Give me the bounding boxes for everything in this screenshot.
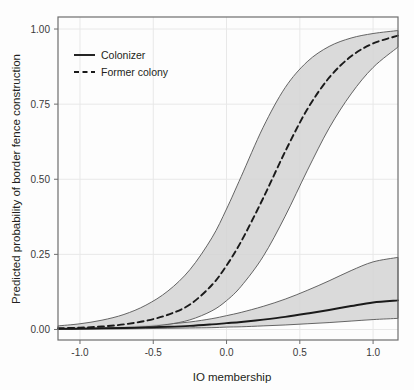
x-axis-title: IO membership: [193, 371, 272, 383]
prediction-plot: -1.0-0.50.00.51.0 0.000.250.500.751.00 I…: [0, 0, 414, 390]
y-tick-label: 1.00: [31, 24, 51, 35]
y-tick-label: 0.75: [31, 99, 51, 110]
x-tick-label: 0.0: [220, 347, 234, 358]
legend-label: Former colony: [101, 66, 169, 78]
x-tick-label: -1.0: [71, 347, 89, 358]
y-tick-label: 0.00: [31, 324, 51, 335]
x-tick-label: 0.5: [293, 347, 307, 358]
y-tick-label: 0.50: [31, 174, 51, 185]
legend-label: Colonizer: [101, 49, 146, 61]
x-tick-label: 1.0: [366, 347, 380, 358]
y-tick-label: 0.25: [31, 249, 51, 260]
x-tick-label: -0.5: [145, 347, 163, 358]
chart-figure: -1.0-0.50.00.51.0 0.000.250.500.751.00 I…: [0, 0, 414, 390]
y-axis-title: Predicted probability of border fence co…: [10, 54, 22, 304]
